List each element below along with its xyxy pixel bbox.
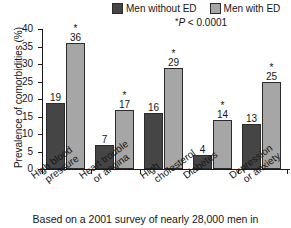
significance-value: < 0.0001	[185, 17, 227, 28]
y-tick-label-25: 25	[22, 76, 33, 87]
bar-star-diabetes: *	[221, 103, 225, 109]
bar-value-16: 16	[148, 102, 159, 113]
bar-star-high-cholesterol: *	[172, 51, 176, 57]
figure-caption: Based on a 2001 survey of nearly 28,000 …	[0, 213, 291, 226]
y-tick-label-30: 30	[22, 58, 33, 69]
chart-legend: Men without ED Men with ED	[112, 1, 290, 15]
bar-value-7: 7	[102, 134, 108, 145]
y-tick-20: 20	[38, 99, 42, 100]
y-tick-30: 30	[38, 64, 42, 65]
y-tick-label-5: 5	[27, 146, 33, 157]
bar-star-depression-or-anxiety: *	[270, 65, 274, 71]
legend-item-men-with-ed: Men with ED	[210, 3, 281, 14]
y-axis-line	[42, 29, 43, 170]
legend-label-men-without-ed: Men without ED	[126, 3, 197, 14]
bar-value-13: 13	[246, 113, 257, 124]
y-tick-label-10: 10	[22, 128, 33, 139]
legend-label-men-with-ed: Men with ED	[224, 3, 281, 14]
legend-swatch-dark-icon	[112, 3, 123, 14]
y-tick-15: 15	[38, 117, 42, 118]
bar-star-high-blood-pressure: *	[74, 26, 78, 32]
y-tick-25: 25	[38, 82, 42, 83]
y-tick-label-35: 35	[22, 41, 33, 52]
y-tick-label-15: 15	[22, 111, 33, 122]
y-tick-5: 5	[38, 152, 42, 153]
legend-item-men-without-ed: Men without ED	[112, 3, 197, 14]
bar-men-with-ed-diabetes[interactable]: 14 *	[213, 120, 232, 169]
bar-star-heart-trouble-or-angina: *	[123, 93, 127, 99]
y-tick-35: 35	[38, 47, 42, 48]
y-tick-10: 10	[38, 134, 42, 135]
y-tick-label-40: 40	[22, 23, 33, 34]
plot-area: 0 5 10 15 20 25 30 35 40	[42, 29, 290, 169]
chart-figure: Men without ED Men with ED *P < 0.0001 P…	[0, 0, 291, 228]
x-axis-category-labels: High blood pressure Heart trouble or ang…	[0, 170, 291, 212]
legend-swatch-light-icon	[210, 3, 221, 14]
y-tick-label-20: 20	[22, 93, 33, 104]
significance-note: *P < 0.0001	[112, 15, 290, 29]
y-tick-40: 40	[38, 29, 42, 30]
bar-value-19: 19	[50, 92, 61, 103]
